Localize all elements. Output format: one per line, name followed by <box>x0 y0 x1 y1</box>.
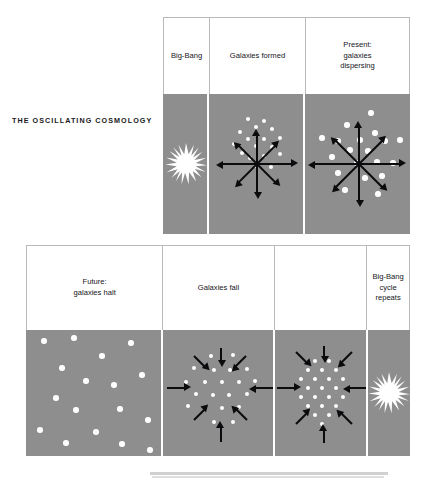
starburst-icon <box>164 141 208 187</box>
galaxy-dot <box>246 117 251 122</box>
contraction-row: Future: galaxies halt Galaxies fall Big-… <box>26 245 410 456</box>
galaxy-dot <box>227 393 232 398</box>
galaxy-dot <box>237 380 242 385</box>
caption-blank <box>275 246 368 330</box>
galaxy-dot <box>83 378 88 383</box>
galaxy-dot <box>63 440 68 445</box>
galaxy-dot <box>278 152 283 157</box>
galaxy-dot <box>375 191 380 196</box>
caption-galaxies-formed: Galaxies formed <box>210 18 306 94</box>
galaxy-dot <box>313 377 318 382</box>
galaxy-dot <box>319 135 324 140</box>
galaxy-dot <box>327 395 332 400</box>
panel-big-bang <box>163 94 209 234</box>
galaxy-dot <box>53 395 58 400</box>
galaxy-dot <box>211 393 216 398</box>
galaxy-dot <box>117 406 122 411</box>
galaxy-dot <box>37 427 42 432</box>
galaxy-dot <box>119 441 124 446</box>
caption-future-halt: Future: galaxies halt <box>27 246 163 330</box>
galaxy-dot <box>397 137 402 142</box>
galaxy-dot <box>128 340 133 345</box>
galaxy-dot <box>313 413 318 418</box>
galaxy-dot <box>327 377 332 382</box>
galaxy-dot <box>329 154 334 159</box>
contraction-row-panels <box>26 330 410 456</box>
galaxy-dot <box>73 407 78 412</box>
galaxy-dot <box>253 379 258 384</box>
galaxy-dot <box>59 365 64 370</box>
galaxy-dot <box>139 372 144 377</box>
galaxy-dot <box>334 386 339 391</box>
galaxy-dot <box>270 127 275 132</box>
galaxy-dot <box>341 395 346 400</box>
galaxy-dot <box>320 386 325 391</box>
caption-galaxies-fall: Galaxies fall <box>163 246 274 330</box>
galaxy-dot <box>368 110 373 115</box>
galaxy-dot <box>379 173 384 178</box>
galaxy-dot <box>71 335 76 340</box>
panel-galaxies-collapse <box>275 330 368 456</box>
galaxy-dot <box>342 187 347 192</box>
galaxy-dot <box>372 130 377 135</box>
caption-big-bang-repeats: Big-Bang cycle repeats <box>367 246 409 330</box>
galaxy-dot <box>186 404 191 409</box>
galaxy-dot <box>299 395 304 400</box>
panel-present-dispersing <box>305 94 408 234</box>
galaxy-dot <box>245 367 250 372</box>
expansion-row-captions: Big-Bang Galaxies formed Present: galaxi… <box>163 17 410 94</box>
galaxy-dot <box>147 447 152 452</box>
galaxy-dot <box>111 382 116 387</box>
caption-big-bang: Big-Bang <box>164 18 210 94</box>
galaxy-dot <box>145 417 150 422</box>
galaxy-dot <box>99 353 104 358</box>
galaxy-dot <box>306 386 311 391</box>
caption-present-dispersing: Present: galaxies dispersing <box>306 18 409 94</box>
galaxy-dot <box>320 368 325 373</box>
galaxy-dot <box>313 395 318 400</box>
figure-title: THE OSCILLATING COSMOLOGY <box>12 116 162 125</box>
galaxy-dot <box>220 406 225 411</box>
galaxy-dot <box>231 353 236 358</box>
galaxy-dot <box>231 420 236 425</box>
galaxy-dot <box>341 377 346 382</box>
oscillating-cosmology-figure: THE OSCILLATING COSMOLOGY Big-Bang Galax… <box>0 0 429 482</box>
galaxy-dot <box>327 413 332 418</box>
galaxy-dot <box>246 137 251 142</box>
galaxy-dot <box>192 366 197 371</box>
panel-galaxies-fall <box>163 330 275 456</box>
panel-future-halt <box>26 330 163 456</box>
galaxy-dot <box>203 380 208 385</box>
galaxy-dot <box>262 119 267 124</box>
galaxy-dot <box>220 380 225 385</box>
expansion-row-panels <box>163 94 410 234</box>
scan-artifact-strip-2 <box>152 476 384 478</box>
expansion-row: Big-Bang Galaxies formed Present: galaxi… <box>163 17 410 234</box>
galaxy-dot <box>209 354 214 359</box>
galaxy-dot <box>334 368 339 373</box>
galaxy-dot <box>299 377 304 382</box>
galaxy-dot <box>194 392 199 397</box>
panel-big-bang-repeats <box>368 330 410 456</box>
galaxy-dot <box>212 368 217 373</box>
galaxy-dot <box>335 170 340 175</box>
galaxy-dot <box>320 404 325 409</box>
contraction-row-captions: Future: galaxies halt Galaxies fall Big-… <box>26 245 410 330</box>
starburst-icon <box>368 370 410 416</box>
scan-artifact-strip <box>150 472 388 475</box>
galaxy-dot <box>41 338 46 343</box>
galaxy-dot <box>362 175 367 180</box>
galaxy-dot <box>262 137 267 142</box>
panel-galaxies-formed <box>209 94 305 234</box>
galaxy-dot <box>93 429 98 434</box>
galaxy-dot <box>238 130 243 135</box>
galaxy-dot <box>269 165 274 170</box>
galaxy-dot <box>344 122 349 127</box>
